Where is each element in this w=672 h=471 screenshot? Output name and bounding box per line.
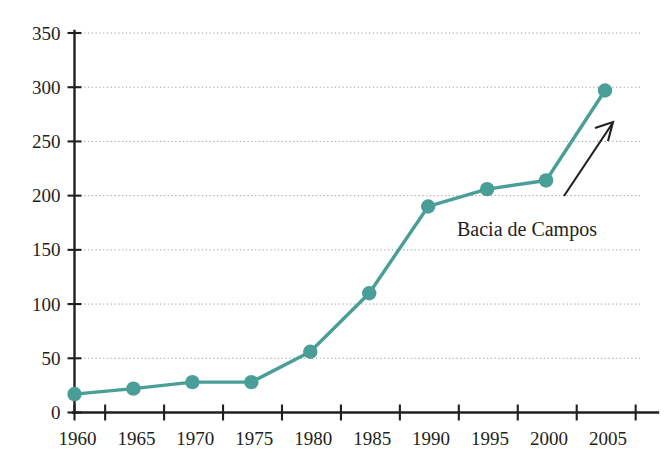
- data-point-markers-group: [67, 83, 612, 401]
- x-axis-tick-label: 1960: [58, 428, 96, 449]
- x-axis-tick-label: 1965: [117, 428, 155, 449]
- data-point-marker: [598, 83, 612, 97]
- annotation-label: Bacia de Campos: [457, 218, 597, 241]
- gridlines-group: [77, 33, 642, 358]
- x-axis-tick-label: 1995: [471, 428, 509, 449]
- line-chart: 050100150200250300350 196019651970197519…: [0, 0, 672, 471]
- data-point-marker: [421, 199, 435, 213]
- y-axis-tick-label: 250: [32, 131, 61, 152]
- data-series-line: [75, 90, 606, 394]
- data-point-marker: [480, 182, 494, 196]
- data-point-marker: [185, 375, 199, 389]
- data-point-marker: [244, 375, 258, 389]
- x-axis-tick-label: 1980: [294, 428, 332, 449]
- y-axis-tick-label: 300: [32, 77, 61, 98]
- x-axis-tick-label: 1970: [176, 428, 214, 449]
- data-point-marker: [303, 345, 317, 359]
- x-axis-labels-group: 1960196519701975198019851990199520002005: [58, 428, 627, 449]
- x-axis-tick-label: 1985: [353, 428, 391, 449]
- chart-canvas: 050100150200250300350 196019651970197519…: [0, 0, 672, 471]
- annotation-arrow: [564, 122, 613, 196]
- data-point-marker: [362, 286, 376, 300]
- data-point-marker: [126, 381, 140, 395]
- data-point-marker: [67, 387, 81, 401]
- y-axis-tick-label: 100: [32, 294, 61, 315]
- data-point-marker: [539, 173, 553, 187]
- x-axis-tick-label: 2005: [589, 428, 627, 449]
- y-axis-tick-label: 0: [51, 402, 61, 423]
- x-axis-tick-label: 2000: [530, 428, 568, 449]
- x-axis-tick-label: 1975: [235, 428, 273, 449]
- y-axis-tick-label: 150: [32, 239, 61, 260]
- y-axis-tick-label: 350: [32, 23, 61, 44]
- x-axis-tick-label: 1990: [412, 428, 450, 449]
- y-axis-labels-group: 050100150200250300350: [32, 23, 61, 424]
- y-axis-tick-label: 50: [42, 348, 61, 369]
- y-axis-tick-label: 200: [32, 185, 61, 206]
